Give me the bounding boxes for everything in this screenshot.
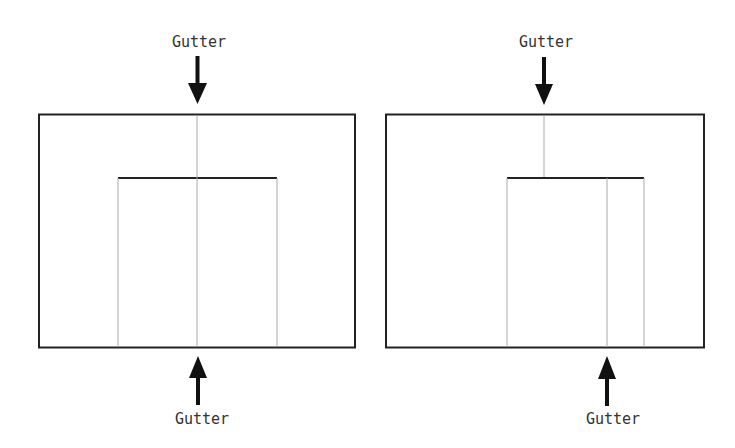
left-panel: Gutter Gutter (39, 33, 355, 428)
top-gutter-label: Gutter (172, 33, 226, 51)
bottom-gutter-label: Gutter (586, 410, 640, 428)
down-arrow-icon (535, 57, 553, 105)
gutter-diagram: Gutter Gutter Gutter Gutter (0, 0, 735, 448)
right-panel: Gutter Gutter (386, 33, 704, 428)
down-arrow-icon (188, 56, 207, 104)
outer-frame (386, 115, 704, 348)
up-arrow-icon (189, 356, 207, 405)
bottom-gutter-label: Gutter (175, 410, 229, 428)
top-gutter-label: Gutter (519, 33, 573, 51)
up-arrow-icon (598, 356, 616, 406)
